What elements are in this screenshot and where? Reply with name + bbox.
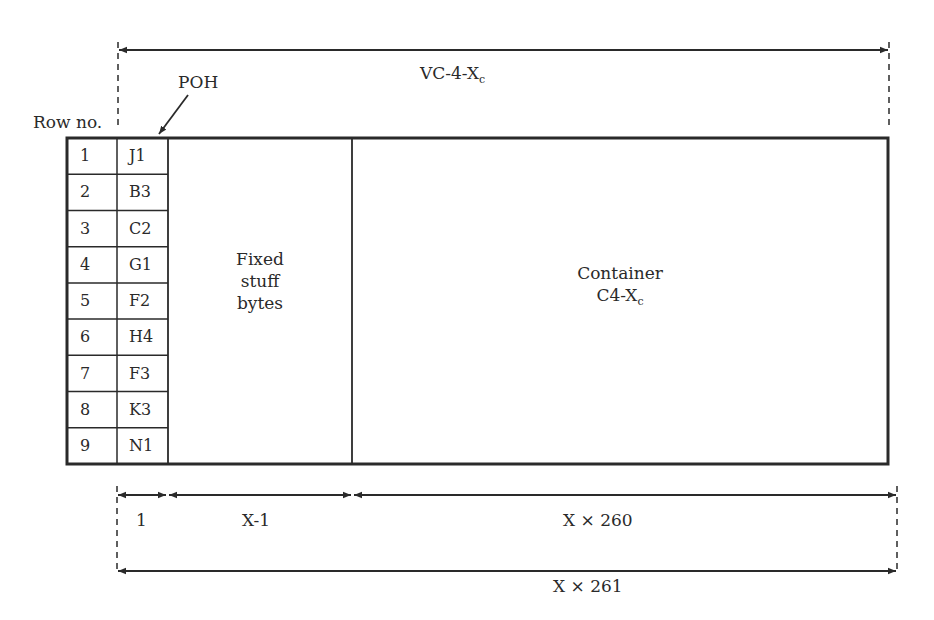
fixed-stuff-label: Fixed stuff bytes [168,248,352,314]
row-number: 8 [80,400,90,420]
row-number: 3 [80,219,90,239]
poh-label: POH [178,72,218,92]
poh-byte: B3 [129,182,151,202]
total-width-label: X × 261 [553,576,623,596]
row-number: 2 [80,182,90,202]
poh-width-label: 1 [136,510,147,530]
fixed-stuff-line2: stuff [168,270,352,292]
row-number: 6 [80,327,90,347]
vc4-label-main: VC-4-X [420,63,479,83]
poh-byte: H4 [129,327,153,347]
poh-byte: F2 [129,291,150,311]
poh-byte: F3 [129,364,150,384]
fixed-stuff-line1: Fixed [168,248,352,270]
container-label: Container C4-Xc [352,262,888,306]
fixed-stuff-width-label: X-1 [242,510,270,530]
row-number: 9 [80,436,90,456]
poh-pointer-arrow [159,95,188,134]
vc4-label-sub: c [479,73,485,86]
container-line1: Container [352,262,888,284]
container-line2: C4-Xc [352,284,888,306]
fixed-stuff-line3: bytes [168,292,352,314]
poh-byte: N1 [129,436,153,456]
poh-byte: C2 [129,219,151,239]
poh-byte: K3 [129,400,151,420]
row-number: 5 [80,291,90,311]
container-line2-main: C4-X [596,285,637,305]
row-no-label: Row no. [33,112,102,132]
container-line2-sub: c [637,295,643,308]
poh-byte: J1 [129,146,146,166]
container-width-label: X × 260 [563,510,633,530]
row-number: 7 [80,364,90,384]
row-number: 1 [80,146,90,166]
row-number: 4 [80,255,90,275]
vc4-xc-label: VC-4-Xc [420,63,485,83]
poh-byte: G1 [129,255,152,275]
